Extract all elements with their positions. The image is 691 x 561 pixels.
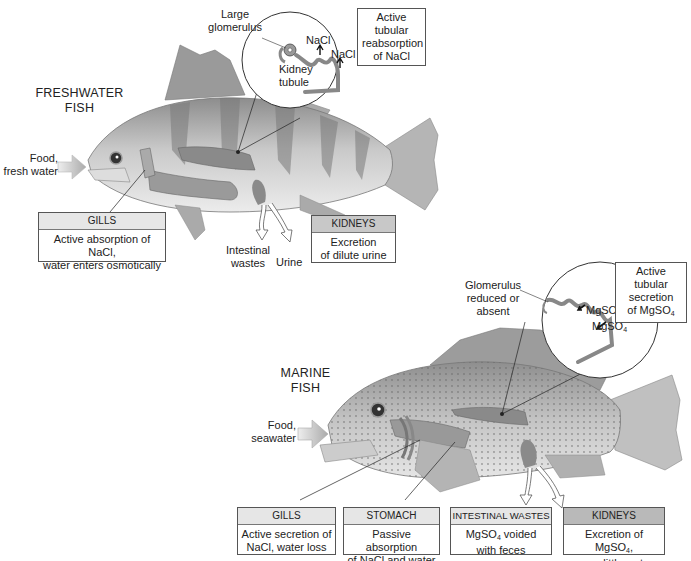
nacl-label-1: NaCl xyxy=(306,34,330,47)
freshwater-gills-box: GILLS Active absorption of NaCl, water e… xyxy=(38,212,166,262)
marine-gills-box: GILLS Active secretion of NaCl, water lo… xyxy=(237,507,336,555)
marine-title: MARINE FISH xyxy=(278,366,333,396)
large-glomerulus-label: Large glomerulus xyxy=(204,8,266,34)
freshwater-food-label: Food, fresh water xyxy=(0,152,58,178)
diagram-artwork xyxy=(0,0,691,561)
marine-kidneys-box: KIDNEYS Excretion of MgSO4, urea, little… xyxy=(563,507,665,555)
urine-label: Urine xyxy=(276,256,302,269)
intestinal-wastes-label: Intestinal wastes xyxy=(220,244,276,270)
glomerulus-reduced-label: Glomerulus reduced or absent xyxy=(464,279,522,318)
freshwater-tubular-callout: Active tubular reabsorption of NaCl xyxy=(357,8,426,66)
marine-stomach-box: STOMACH Passive absorption of NaCl and w… xyxy=(343,507,440,555)
marine-intestinal-wastes-box: INTESTINAL WASTES MgSO4 voided with fece… xyxy=(450,507,552,555)
marine-food-label: Food, seawater xyxy=(248,419,296,445)
freshwater-kidneys-box: KIDNEYS Excretion of dilute urine xyxy=(311,215,396,263)
marine-tubular-callout: Active tubular secretion of MgSO4 xyxy=(615,262,687,323)
kidney-tubule-label: Kidney tubule xyxy=(279,63,315,89)
nacl-label-2: NaCl xyxy=(331,48,355,61)
box-header: GILLS xyxy=(39,213,165,230)
freshwater-title: FRESHWATER FISH xyxy=(32,86,127,116)
